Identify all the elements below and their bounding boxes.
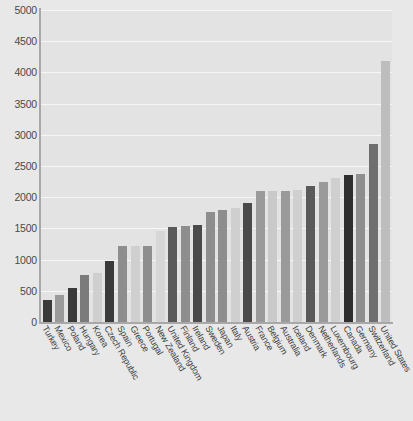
y-tick-label: 0 [1, 316, 37, 328]
bar [93, 273, 102, 322]
bar [118, 246, 127, 322]
gridlines-and-bars [41, 10, 392, 322]
gridline [41, 135, 392, 136]
bar [218, 210, 227, 322]
gridline [41, 104, 392, 105]
bar-chart: 0500100015002000250030003500400045005000… [0, 0, 413, 421]
bar [256, 191, 265, 322]
bar [80, 275, 89, 322]
bar [356, 174, 365, 322]
y-tick-label: 500 [1, 285, 37, 297]
bar [105, 261, 114, 322]
y-tick-label: 3000 [1, 129, 37, 141]
y-axis-line [39, 8, 41, 324]
x-axis-category-labels: TurkeyMexicoPolandHungaryKoreaCzech Repu… [41, 324, 392, 421]
gridline [41, 72, 392, 73]
bar [306, 186, 315, 322]
bar [231, 208, 240, 322]
bar [68, 288, 77, 322]
bar [168, 227, 177, 322]
y-tick-label: 1500 [1, 222, 37, 234]
bar [181, 226, 190, 322]
bar [43, 300, 52, 322]
gridline [41, 10, 392, 11]
bar [369, 144, 378, 322]
bar [156, 231, 165, 322]
bar [243, 203, 252, 322]
gridline [41, 41, 392, 42]
bar [331, 178, 340, 322]
y-tick-label: 1000 [1, 254, 37, 266]
bar [131, 246, 140, 322]
bar [268, 191, 277, 322]
y-tick-label: 2000 [1, 191, 37, 203]
bar [193, 225, 202, 322]
bar [319, 182, 328, 322]
bar [381, 61, 390, 322]
y-tick-label: 4000 [1, 66, 37, 78]
bar [143, 246, 152, 322]
bar [55, 295, 64, 322]
y-tick-label: 2500 [1, 160, 37, 172]
y-tick-label: 4500 [1, 35, 37, 47]
bar [206, 212, 215, 322]
bar [281, 191, 290, 322]
gridline [41, 166, 392, 167]
y-tick-label: 3500 [1, 98, 37, 110]
bar [293, 190, 302, 322]
y-tick-label: 5000 [1, 4, 37, 16]
plot-area [41, 10, 392, 322]
y-axis-tick-labels: 0500100015002000250030003500400045005000 [0, 0, 37, 421]
bar [344, 175, 353, 322]
